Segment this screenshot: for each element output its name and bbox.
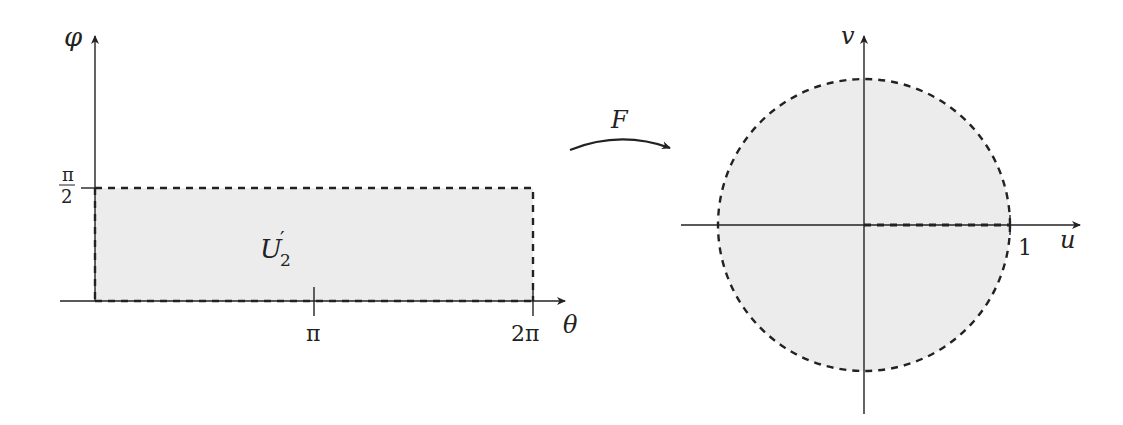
right-plot: 1 u v [681,22,1080,414]
phi-axis-label: φ [64,22,83,52]
map-label-f: F [610,106,629,134]
u-axis-label: u [1060,226,1075,254]
left-plot: φ π 2 π 2π θ U ′ 2 [59,22,578,346]
tick-label-1: 1 [1018,235,1032,260]
theta-axis-label: θ [563,311,578,339]
svg-text:2: 2 [280,250,291,270]
svg-text:′: ′ [280,227,285,251]
tick-label-2pi: 2π [511,321,539,346]
diagram-canvas: φ π 2 π 2π θ U ′ 2 F 1 u v [0,0,1123,425]
v-axis-label: v [841,22,855,50]
map-f: F [570,106,670,150]
tick-label-pi: π [306,321,320,346]
pi-half-denominator: 2 [61,186,72,207]
map-arrow [570,139,670,150]
pi-half-numerator: π [62,164,74,185]
region-u2-prime [95,188,533,301]
